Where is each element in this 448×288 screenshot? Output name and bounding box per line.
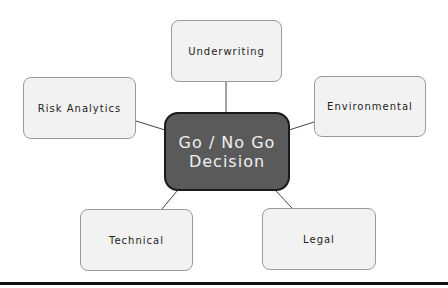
node-label: Legal — [303, 234, 335, 245]
connector-risk-analytics — [136, 121, 165, 130]
connector-legal — [276, 191, 292, 208]
node-technical: Technical — [80, 209, 193, 271]
center-label-line1: Go / No Go — [179, 133, 276, 152]
connector-environmental — [289, 122, 314, 130]
node-legal: Legal — [262, 208, 376, 270]
center-label-line2: Decision — [179, 152, 276, 171]
bottom-divider — [0, 282, 448, 285]
node-environmental: Environmental — [314, 76, 426, 137]
node-risk-analytics: Risk Analytics — [23, 77, 136, 139]
center-node-go-no-go-decision: Go / No Go Decision — [164, 112, 290, 191]
node-label: Technical — [109, 235, 164, 246]
connector-technical — [162, 191, 177, 209]
node-label: Underwriting — [188, 46, 265, 57]
node-underwriting: Underwriting — [171, 20, 282, 82]
node-label: Risk Analytics — [38, 103, 121, 114]
node-label: Environmental — [327, 101, 413, 112]
